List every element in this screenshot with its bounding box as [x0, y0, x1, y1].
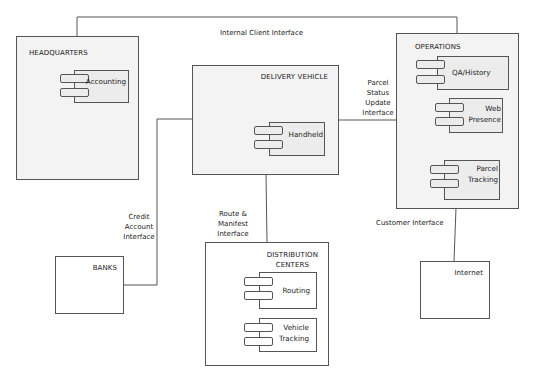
edge-label-credit-account: Credit Account Interface [121, 212, 157, 242]
edge-label-line: Update [360, 98, 396, 108]
component-label: Vehicle Tracking [268, 322, 309, 344]
edge-label-route-manifest: Route & Manifest Interface [214, 209, 252, 239]
node-title-line: DISTRIBUTION [267, 250, 318, 260]
node-title: HEADQUARTERS [29, 49, 88, 57]
component-label-line: Presence [457, 114, 501, 125]
edge-label-line: Manifest [214, 219, 252, 229]
node-title: DELIVERY VEHICLE [261, 73, 328, 81]
edge-label-line: Interface [121, 232, 157, 242]
component-tab-icon [244, 277, 273, 286]
edge-label-line: Account [121, 222, 157, 232]
component-tab-icon [60, 88, 89, 97]
node-title: Internet [454, 269, 483, 277]
node-internet[interactable]: Internet [420, 261, 490, 319]
component-label: Web Presence [457, 103, 501, 125]
node-title-line: CENTERS [267, 260, 318, 270]
edge-label-internal-client: Internal Client Interface [220, 28, 303, 38]
edge-label-line: Parcel [360, 78, 396, 88]
component-tab-icon [254, 140, 283, 149]
component-tab-icon [416, 60, 445, 69]
component-label: QA/History [450, 67, 500, 78]
component-label-line: Tracking [455, 174, 498, 185]
component-tab-icon [244, 291, 273, 300]
edge-label-line: Credit [121, 212, 157, 222]
component-label-line: Vehicle [268, 322, 309, 333]
node-headquarters[interactable]: HEADQUARTERS [16, 36, 139, 180]
edge-customer [454, 208, 456, 261]
node-title: OPERATIONS [415, 43, 461, 51]
component-label-line: Parcel [455, 163, 498, 174]
edge-label-line: Route & [214, 209, 252, 219]
edge-label-line: Status [360, 88, 396, 98]
edge-label-customer: Customer Interface [376, 218, 444, 228]
component-tab-icon [254, 126, 283, 135]
node-delivery-vehicle[interactable]: DELIVERY VEHICLE [192, 65, 339, 175]
edge-label-line: Interface [214, 229, 252, 239]
edge-route-manifest [266, 174, 267, 242]
node-title: BANKS [93, 264, 117, 272]
component-label-line: Tracking [268, 333, 309, 344]
component-label: Parcel Tracking [455, 163, 498, 185]
component-tab-icon [416, 75, 445, 84]
component-label-line: Web [457, 103, 501, 114]
component-label: Routing [270, 285, 310, 296]
edge-label-line: Interface [360, 108, 396, 118]
node-title: DISTRIBUTION CENTERS [267, 250, 318, 270]
edge-label-parcel-status: Parcel Status Update Interface [360, 78, 396, 118]
node-banks[interactable]: BANKS [55, 256, 124, 314]
component-label: Handheld [284, 129, 323, 140]
component-label: Accounting [82, 76, 126, 87]
